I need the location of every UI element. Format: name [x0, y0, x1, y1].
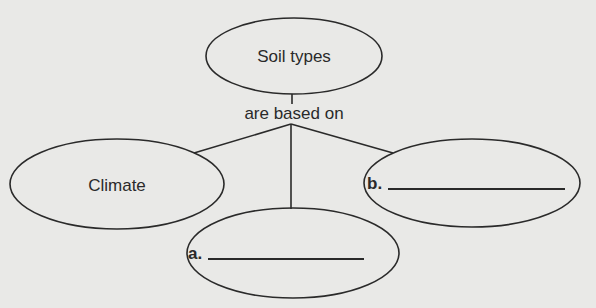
- branch-left: [194, 124, 291, 153]
- a-blank: a.: [188, 245, 364, 262]
- b-blank: b.: [367, 175, 565, 192]
- a-prefix: a.: [188, 245, 202, 262]
- a-answer-line[interactable]: [208, 258, 364, 260]
- climate-node-label: Climate: [88, 176, 146, 196]
- root-node-label: Soil types: [257, 47, 331, 67]
- branch-right: [291, 124, 393, 153]
- link-label: are based on: [244, 104, 343, 124]
- b-prefix: b.: [367, 175, 382, 192]
- concept-map: Soil types are based on Climate b. a.: [0, 0, 596, 308]
- b-answer-line[interactable]: [388, 188, 565, 190]
